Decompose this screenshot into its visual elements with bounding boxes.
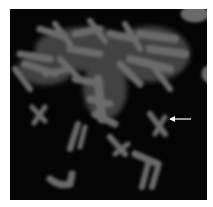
chromosome-spread [10,9,207,200]
micrograph [10,9,207,200]
